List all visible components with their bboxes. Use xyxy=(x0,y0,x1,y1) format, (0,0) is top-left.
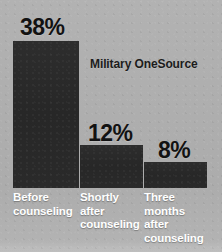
bar-three-months-after-counseling[interactable] xyxy=(144,162,207,188)
series-title: Military OneSource xyxy=(90,58,198,71)
bar-chart: 38% 12% 8% Military OneSource Before cou… xyxy=(0,0,222,252)
value-label-shortly-after-counseling: 12% xyxy=(88,122,133,145)
category-label-line: counseling xyxy=(13,205,79,219)
category-label-line: Shortly xyxy=(80,191,144,205)
value-label-three-months-after-counseling: 8% xyxy=(158,139,190,162)
value-label-before-counseling: 38% xyxy=(20,16,65,39)
plot-area: 38% 12% 8% Military OneSource Before cou… xyxy=(0,0,222,252)
category-label-three-months-after-counseling: Three months after counseling xyxy=(144,191,216,245)
category-label-line: after xyxy=(144,218,216,232)
category-label-line: Three xyxy=(144,191,216,205)
bar-shortly-after-counseling[interactable] xyxy=(80,145,143,188)
category-label-line: counseling xyxy=(80,218,144,232)
bar-before-counseling[interactable] xyxy=(13,41,79,188)
category-label-before-counseling: Before counseling xyxy=(13,191,79,218)
category-label-line: after xyxy=(80,205,144,219)
category-label-line: months xyxy=(144,205,216,219)
category-label-line: Before xyxy=(13,191,79,205)
category-label-shortly-after-counseling: Shortly after counseling xyxy=(80,191,144,232)
category-label-line: counseling xyxy=(144,232,216,246)
